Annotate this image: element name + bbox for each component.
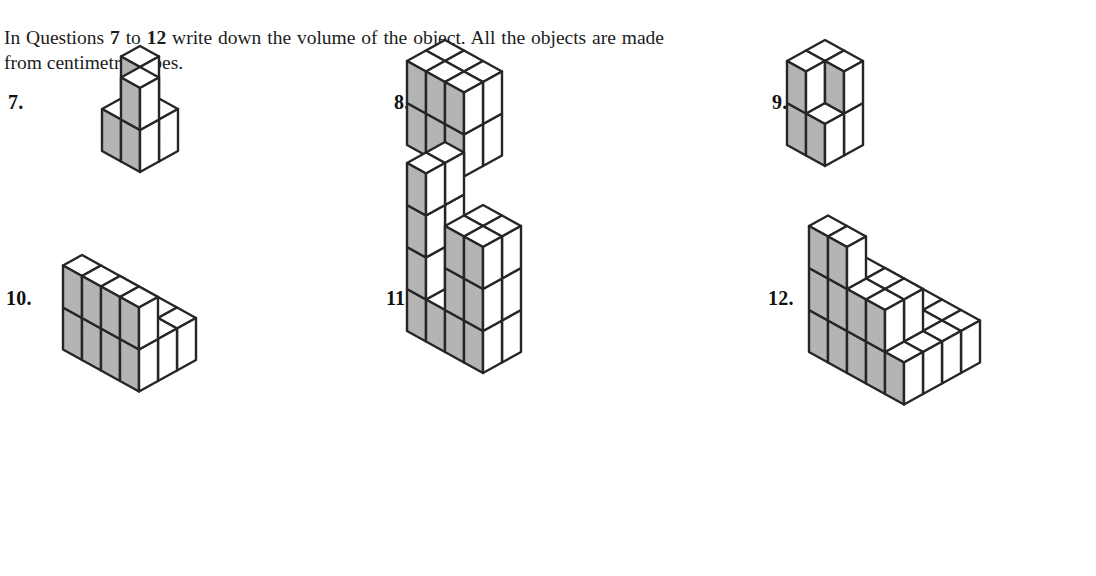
cube-figure-svg <box>40 288 340 576</box>
instructions-paragraph: In Questions 7 to 12 write down the volu… <box>4 25 664 75</box>
question-number-label: 10. <box>6 288 32 308</box>
cube-face-right <box>483 72 502 125</box>
instructions-text-1: In Questions <box>4 27 110 48</box>
cube-face-shaded <box>787 61 806 114</box>
cube-face-right <box>140 78 159 131</box>
cube-face-right <box>923 342 942 395</box>
cube-face-right <box>445 153 464 206</box>
cube-object-figure <box>40 288 340 576</box>
cube-face-shaded <box>866 300 885 353</box>
cube-face-right <box>961 321 980 374</box>
cube-face-right <box>847 237 866 290</box>
question-number-label: 9. <box>772 92 787 112</box>
cube-face-shaded <box>464 237 483 290</box>
unit-cube <box>806 103 844 166</box>
cube-face-right <box>464 82 483 135</box>
cube-face-shaded <box>445 226 464 279</box>
unit-cube <box>828 226 866 289</box>
cube-face-shaded <box>407 163 426 216</box>
unit-cube <box>825 51 863 114</box>
cube-figure-svg <box>790 288 1090 576</box>
cube-figure-svg <box>415 288 715 576</box>
cube-face-shaded <box>809 226 828 279</box>
instructions-bold-7: 7 <box>110 27 120 48</box>
cube-face-right <box>158 329 177 382</box>
cube-face-shaded <box>426 300 445 353</box>
cube-face-shaded <box>101 287 120 340</box>
unit-cube <box>787 51 825 114</box>
unit-cube <box>866 289 904 352</box>
cube-face-right <box>159 109 178 162</box>
cube-object-figure <box>415 288 715 576</box>
cube-face-right <box>885 300 904 353</box>
cube-face-right <box>904 289 923 342</box>
cube-face-shaded <box>885 352 904 405</box>
cube-face-right <box>426 163 445 216</box>
unit-cube <box>885 342 923 405</box>
cube-face-shaded <box>102 109 121 162</box>
cube-face-right <box>483 237 502 290</box>
cube-face-right <box>177 318 196 371</box>
cube-face-shaded <box>407 61 426 114</box>
cube-face-shaded <box>120 297 139 350</box>
cube-face-shaded <box>426 72 445 125</box>
cube-face-right <box>844 61 863 114</box>
question-number-label: 7. <box>8 92 23 112</box>
cube-face-shaded <box>63 266 82 319</box>
unit-cube <box>407 153 445 216</box>
unit-cube <box>120 287 158 350</box>
cube-face-right <box>806 61 825 114</box>
cube-face-shaded <box>445 82 464 135</box>
cube-face-shaded <box>82 276 101 329</box>
cube-object-figure <box>790 288 1090 576</box>
instructions-text-2: to <box>120 27 147 48</box>
cube-face-right <box>904 352 923 405</box>
cube-face-shaded <box>825 61 844 114</box>
unit-cube <box>464 226 502 289</box>
cube-face-right <box>139 297 158 350</box>
unit-cube <box>121 67 159 130</box>
cube-face-right <box>942 331 961 384</box>
cube-face-shaded <box>121 78 140 131</box>
cube-face-shaded <box>806 114 825 167</box>
instructions-bold-12: 12 <box>147 27 167 48</box>
cube-face-right <box>502 226 521 279</box>
cube-face-shaded <box>828 237 847 290</box>
cube-face-shaded <box>847 289 866 342</box>
unit-cube <box>445 72 483 135</box>
cube-face-right <box>825 114 844 167</box>
